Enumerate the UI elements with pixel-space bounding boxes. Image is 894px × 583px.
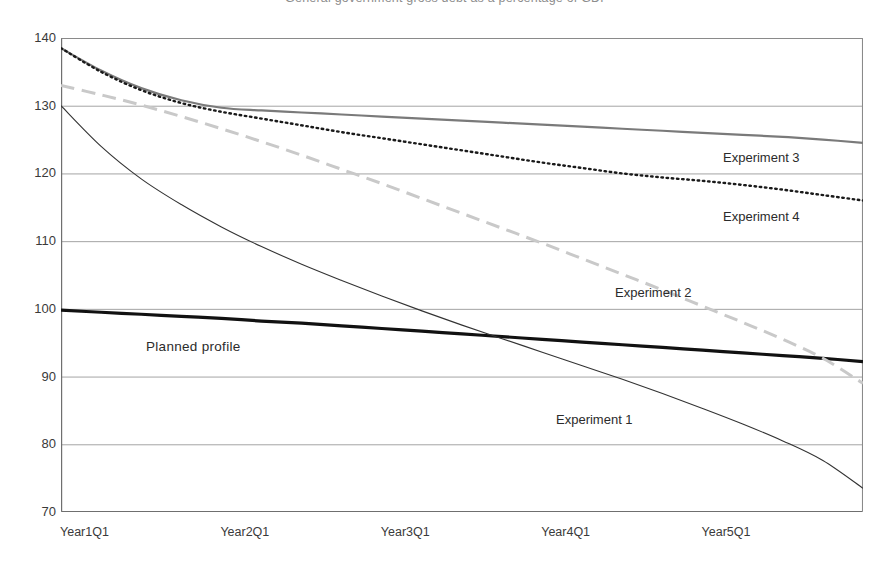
plot-svg	[61, 38, 863, 512]
plot-area	[61, 38, 863, 512]
series-label-experiment-4: Experiment 4	[723, 209, 800, 224]
data-series	[61, 48, 863, 488]
gridlines	[61, 39, 863, 513]
x-tick-label: Year2Q1	[220, 525, 269, 539]
chart-canvas: General government gross debt as a perce…	[0, 0, 894, 583]
x-tick-label: Year5Q1	[702, 525, 751, 539]
plot-frame	[62, 39, 863, 512]
x-tick-label: Year1Q1	[60, 525, 109, 539]
x-tick-marks	[62, 512, 864, 513]
series-label-experiment-3: Experiment 3	[723, 150, 800, 165]
x-tick-label: Year3Q1	[381, 525, 430, 539]
series-label-planned-profile: Planned profile	[146, 339, 241, 354]
series-line-experiment-3	[61, 48, 863, 143]
series-label-experiment-1: Experiment 1	[556, 412, 633, 427]
series-line-experiment-4	[61, 48, 863, 200]
series-label-experiment-2: Experiment 2	[615, 285, 692, 300]
x-tick-label: Year4Q1	[541, 525, 590, 539]
